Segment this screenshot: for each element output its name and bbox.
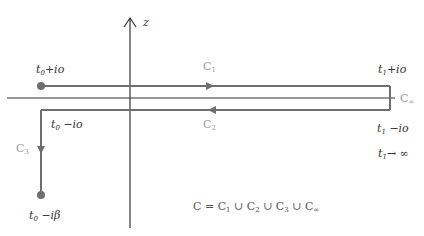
c1-arrow-icon (206, 82, 214, 90)
label-t0-plus-io: t0+io (36, 63, 65, 77)
label-t1-minus-io: t1 −io (377, 122, 409, 136)
label-t0-minus-ibeta: t0 −iβ (29, 209, 60, 223)
contour-union-equation: C = C1 ∪ C2 ∪ C3 ∪ C∞ (193, 200, 319, 214)
contour-diagram: z t0+io t1+io t0 −io t1 −io t0 −iβ C1 C2… (0, 0, 424, 236)
c2-arrow-icon (208, 106, 216, 114)
label-c1: C1 (203, 60, 216, 74)
start-point-dot (37, 82, 45, 90)
label-c2: C2 (203, 118, 216, 132)
limit-note: t1→ ∞ (378, 147, 409, 161)
label-t1-plus-io: t1+io (378, 63, 407, 77)
label-cinf: C∞ (400, 92, 414, 106)
contour (41, 86, 390, 195)
axis-label-z: z (142, 16, 149, 29)
label-c3: C3 (16, 142, 29, 156)
end-point-dot (37, 191, 45, 199)
label-t0-minus-io: t0 −io (51, 118, 83, 132)
c3-arrow-icon (37, 146, 45, 154)
